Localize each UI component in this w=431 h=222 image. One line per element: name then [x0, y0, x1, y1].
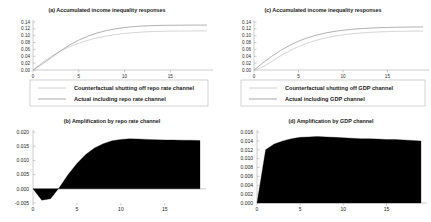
- panel-a-ytick-label: 0.04: [21, 54, 30, 59]
- panel-d-xtick-label: 10: [341, 206, 347, 212]
- panel-b-xtick-label: 5: [76, 206, 79, 212]
- panel-a-legend-box: [30, 80, 208, 106]
- panel-d-area-fill: [257, 136, 421, 203]
- panel-a-series-line: [33, 25, 207, 70]
- panel-d-ytick-label: 0.012: [240, 147, 253, 153]
- panel-c-legend-label-counterfactual: Counterfactual shutting off GDP channel: [285, 85, 393, 91]
- panel-c-legend-label-actual: Actual including GDP channel: [285, 96, 365, 102]
- panel-b-xtick-label: 15: [162, 206, 168, 212]
- panel-d-title: (d) Amplification by GDP channel: [288, 118, 374, 124]
- panel-a-ytick-label: 0.14: [21, 20, 30, 25]
- panel-d-ytick-label: 0.004: [240, 182, 253, 188]
- panel-c-xtick-label: 5: [297, 74, 300, 79]
- panel-a-ytick-label: 0.08: [21, 40, 30, 45]
- panel-d-ytick-label: 0.002: [240, 191, 253, 197]
- panel-c-xtick-label: 0: [253, 74, 256, 79]
- panel-a-xtick-label: 0: [32, 74, 35, 79]
- panel-b-ytick-label: 0.020: [16, 129, 29, 135]
- panel-a-ytick-label: 0.00: [21, 68, 30, 73]
- panel-c-ytick-label: 0.06: [242, 47, 251, 52]
- panel-b-xtick-label: 0: [32, 206, 35, 212]
- panel-a-legend-label-counterfactual: Counterfactual shutting off repo rate ch…: [74, 85, 194, 91]
- panel-a-accumulated-repo: (a) Accumulated income inequality respon…: [0, 0, 215, 111]
- panel-d-xtick-label: 5: [299, 206, 302, 212]
- panel-d-xtick-label: 0: [256, 206, 259, 212]
- panel-a-xtick-label: 15: [168, 74, 174, 79]
- panel-d-ytick-label: 0.010: [240, 155, 253, 161]
- panel-b-ytick-label: 0.010: [16, 157, 29, 163]
- panel-b-area-fill: [33, 139, 200, 200]
- panel-a-plot: 0.000.020.040.060.080.100.120.14051015: [21, 20, 213, 79]
- panel-b-title: (b) Amplification by repo rate channel: [64, 118, 161, 124]
- panel-b-ytick-label: 0.005: [16, 171, 29, 177]
- panel-b-xtick-label: 10: [118, 206, 124, 212]
- panel-c-ytick-label: 0.04: [242, 54, 251, 59]
- panel-d-ytick-label: 0.016: [240, 129, 253, 135]
- panel-c-series-line: [254, 27, 423, 70]
- panel-a-title: (a) Accumulated income inequality respon…: [48, 7, 165, 13]
- panel-c-ytick-label: 0.08: [242, 40, 251, 45]
- panel-b-amplification-repo: (b) Amplification by repo rate channel -…: [0, 110, 215, 222]
- panel-a-ytick-label: 0.10: [21, 33, 30, 38]
- panel-c-ytick-label: 0.10: [242, 33, 251, 38]
- panel-d-plot: 0.0000.0020.0040.0060.0080.0100.0120.014…: [240, 129, 427, 212]
- panel-c-ytick-label: 0.00: [242, 68, 251, 73]
- panel-c-xtick-label: 10: [340, 74, 346, 79]
- panel-a-xtick-label: 10: [122, 74, 128, 79]
- panel-d-xtick-label: 15: [384, 206, 390, 212]
- panel-b-ytick-label: -0.005: [15, 200, 29, 206]
- panel-c-ytick-label: 0.02: [242, 61, 251, 66]
- panel-a-legend-label-actual: Actual including repo rate channel: [74, 96, 166, 102]
- panel-a-ytick-label: 0.12: [21, 26, 30, 31]
- panel-c-legend-box: [241, 80, 425, 106]
- panel-a-xtick-label: 5: [78, 74, 81, 79]
- panel-c-plot: 0.000.020.040.060.080.100.120.14051015: [242, 20, 429, 79]
- panel-b-ytick-label: 0.015: [16, 143, 29, 149]
- panel-c-title: (c) Accumulated income inequality respon…: [264, 7, 381, 13]
- figure-panel-grid: (a) Accumulated income inequality respon…: [0, 0, 431, 222]
- panel-b-ytick-label: 0.000: [16, 186, 29, 192]
- panel-a-ytick-label: 0.02: [21, 61, 30, 66]
- panel-c-ytick-label: 0.14: [242, 20, 251, 25]
- panel-d-ytick-label: 0.000: [240, 200, 253, 206]
- panel-c-accumulated-gdp: (c) Accumulated income inequality respon…: [216, 0, 431, 111]
- panel-c-ytick-label: 0.12: [242, 26, 251, 31]
- panel-c-series-line: [254, 31, 423, 70]
- panel-a-ytick-label: 0.06: [21, 47, 30, 52]
- panel-d-ytick-label: 0.008: [240, 164, 253, 170]
- panel-b-plot: -0.0050.0000.0050.0100.0150.020051015: [15, 129, 206, 212]
- panel-d-ytick-label: 0.006: [240, 173, 253, 179]
- panel-a-series-line: [33, 31, 207, 70]
- panel-d-amplification-gdp: (d) Amplification by GDP channel 0.0000.…: [216, 110, 431, 222]
- panel-d-ytick-label: 0.014: [240, 138, 253, 144]
- panel-c-xtick-label: 15: [385, 74, 391, 79]
